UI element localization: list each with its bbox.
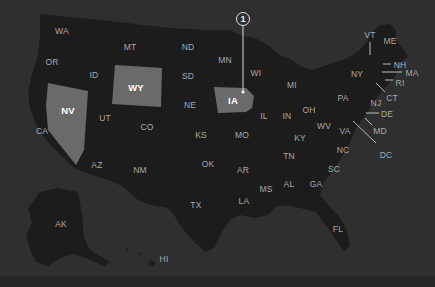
marker-anchor-dot: [241, 90, 244, 93]
state-label-sd[interactable]: SD: [182, 71, 194, 81]
state-label-ky[interactable]: KY: [294, 133, 306, 143]
state-label-sc[interactable]: SC: [328, 164, 340, 174]
state-label-nv[interactable]: NV: [61, 105, 75, 116]
state-label-il[interactable]: IL: [260, 111, 268, 121]
bottom-bar: [0, 276, 435, 287]
state-label-mo[interactable]: MO: [235, 130, 249, 140]
state-label-al[interactable]: AL: [284, 179, 295, 189]
state-label-dc[interactable]: DC: [380, 150, 393, 160]
state-label-ri[interactable]: RI: [396, 78, 405, 88]
state-label-id[interactable]: ID: [90, 70, 99, 80]
state-label-nm[interactable]: NM: [133, 165, 147, 175]
state-label-ar[interactable]: AR: [237, 165, 249, 175]
state-label-ca[interactable]: CA: [36, 126, 48, 136]
state-label-va[interactable]: VA: [339, 126, 350, 136]
state-label-vt[interactable]: VT: [364, 30, 375, 40]
state-label-ut[interactable]: UT: [99, 113, 111, 123]
state-label-mi[interactable]: MI: [287, 80, 297, 90]
state-label-ia[interactable]: IA: [228, 95, 238, 106]
state-label-la[interactable]: LA: [239, 196, 250, 206]
state-label-nd[interactable]: ND: [182, 42, 195, 52]
state-label-ct[interactable]: CT: [386, 93, 398, 103]
state-label-wa[interactable]: WA: [55, 26, 69, 36]
state-label-pa[interactable]: PA: [337, 93, 348, 103]
map-shapes: [0, 0, 435, 287]
state-label-mn[interactable]: MN: [218, 55, 232, 65]
state-shape-nv[interactable]: [46, 83, 88, 165]
state-label-ma[interactable]: MA: [405, 68, 418, 78]
state-label-nj[interactable]: NJ: [371, 98, 382, 108]
state-label-tn[interactable]: TN: [283, 151, 295, 161]
state-label-ga[interactable]: GA: [310, 179, 323, 189]
state-label-in[interactable]: IN: [283, 111, 292, 121]
state-label-ks[interactable]: KS: [195, 130, 207, 140]
marker-badge[interactable]: 1: [236, 12, 250, 26]
hawaii-shape: [126, 248, 156, 266]
state-label-oh[interactable]: OH: [302, 105, 315, 115]
state-label-ok[interactable]: OK: [202, 159, 215, 169]
state-label-or[interactable]: OR: [45, 57, 58, 67]
state-label-ny[interactable]: NY: [351, 69, 363, 79]
state-label-fl[interactable]: FL: [333, 224, 343, 234]
state-label-wv[interactable]: WV: [317, 121, 331, 131]
state-label-md[interactable]: MD: [373, 126, 387, 136]
state-label-me[interactable]: ME: [383, 36, 396, 46]
state-label-mt[interactable]: MT: [124, 42, 137, 52]
state-label-ms[interactable]: MS: [259, 184, 272, 194]
state-label-az[interactable]: AZ: [91, 160, 102, 170]
state-label-ne[interactable]: NE: [184, 100, 196, 110]
state-label-wy[interactable]: WY: [128, 82, 144, 93]
state-label-ak[interactable]: AK: [55, 219, 67, 229]
state-label-de[interactable]: DE: [381, 109, 393, 119]
state-label-wi[interactable]: WI: [251, 68, 262, 78]
marker-number: 1: [240, 14, 245, 24]
state-label-tx[interactable]: TX: [190, 200, 201, 210]
us-state-map: WAORIDMTNDSDWYNVUTCACONEKSAZNMOKTXMNIAWI…: [0, 0, 435, 287]
state-label-nc[interactable]: NC: [337, 145, 350, 155]
alaska-shape: [26, 188, 110, 266]
state-label-co[interactable]: CO: [140, 122, 153, 132]
state-label-hi[interactable]: HI: [160, 254, 169, 264]
